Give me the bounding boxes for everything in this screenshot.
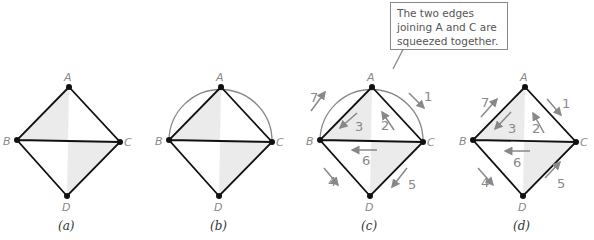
caption-c: (c): [361, 219, 377, 233]
svg-text:A: A: [519, 71, 528, 84]
svg-text:5: 5: [408, 177, 416, 192]
svg-text:D: D: [518, 201, 526, 214]
svg-text:C: C: [580, 136, 588, 149]
svg-text:A: A: [215, 71, 224, 84]
svg-text:5: 5: [557, 176, 565, 191]
svg-text:4: 4: [481, 175, 489, 190]
svg-text:4: 4: [328, 174, 336, 189]
svg-text:C: C: [427, 136, 435, 149]
svg-text:A: A: [366, 71, 375, 84]
svg-text:7: 7: [310, 90, 318, 105]
svg-text:7: 7: [481, 95, 489, 110]
svg-text:B: B: [306, 135, 314, 148]
vertex-label-d: D: [62, 201, 70, 214]
svg-text:1: 1: [424, 89, 432, 104]
svg-text:6: 6: [513, 155, 521, 170]
svg-text:3: 3: [508, 121, 516, 136]
svg-text:B: B: [155, 135, 163, 148]
panel-c: A B C D 1 2 3 4 5 6 7 (c): [306, 30, 435, 233]
svg-text:2: 2: [381, 118, 389, 133]
caption-a: (a): [58, 219, 75, 233]
svg-text:C: C: [276, 136, 284, 149]
callout-box: The two edges joining A and C are squeez…: [390, 2, 508, 50]
svg-text:B: B: [459, 135, 467, 148]
vertex-label-b: B: [3, 135, 11, 148]
svg-text:1: 1: [562, 96, 570, 111]
caption-d: (d): [513, 219, 530, 233]
svg-text:6: 6: [362, 153, 370, 168]
svg-text:3: 3: [355, 119, 363, 134]
panel-b: A B C D (b): [155, 71, 284, 233]
vertex-label-a: A: [63, 71, 72, 84]
panel-d: A B C D 1 2 3 4 5 6 7 (d): [459, 71, 588, 233]
svg-text:D: D: [365, 201, 373, 214]
caption-b: (b): [210, 219, 227, 233]
svg-text:D: D: [214, 201, 222, 214]
svg-text:2: 2: [532, 121, 540, 136]
vertex-label-c: C: [124, 136, 132, 149]
panel-a: A B C D (a): [3, 71, 132, 233]
